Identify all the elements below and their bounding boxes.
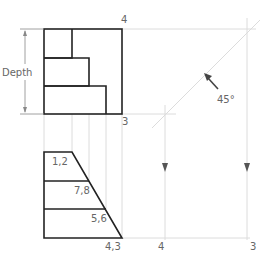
arrow-down-icon-4 (162, 163, 168, 172)
arrow-down-icon (23, 107, 27, 113)
top-view (44, 29, 122, 114)
point-label-4-3: 4,3 (105, 241, 121, 252)
point-label-5-6: 5,6 (91, 213, 107, 224)
arrow-shaft (208, 78, 218, 89)
corner-label-3: 3 (122, 116, 128, 127)
step-3 (44, 86, 106, 114)
arrow-down-icon-3 (244, 163, 250, 172)
arrow-up-left-icon (204, 73, 212, 81)
angle-label: 45° (217, 94, 235, 105)
guide-lines (44, 18, 260, 240)
depth-label: Depth (2, 67, 32, 78)
projection-diagram: Depth 4 3 45° 1,2 7,8 5,6 4,3 4 3 (0, 0, 269, 267)
projection-label-4: 4 (158, 241, 164, 252)
point-label-7-8: 7,8 (74, 185, 90, 196)
top-view-outline (44, 29, 122, 114)
step-2 (44, 58, 89, 86)
corner-label-4: 4 (121, 14, 127, 25)
step-1 (44, 29, 72, 58)
projection-label-3: 3 (250, 241, 256, 252)
point-label-1-2: 1,2 (52, 156, 68, 167)
arrow-up-icon (23, 30, 27, 36)
miter-arrow (204, 73, 218, 89)
